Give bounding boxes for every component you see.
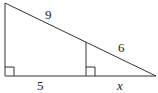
similar-triangles-diagram: 9 6 5 x [0,0,158,93]
right-angle-mark-left [5,67,14,76]
right-angle-mark-inner [86,67,95,76]
label-hypotenuse-upper: 9 [45,7,52,22]
label-base-right-x: x [116,78,123,93]
label-hypotenuse-lower: 6 [118,40,125,55]
hypotenuse [5,3,156,76]
label-base-left: 5 [37,78,44,93]
